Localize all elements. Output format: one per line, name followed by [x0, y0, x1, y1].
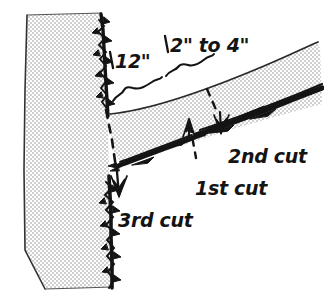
- cut-label-3rd: 3rd cut: [118, 209, 194, 231]
- brace-2to4in: [166, 54, 214, 76]
- dimension-label-12in: 12": [115, 50, 150, 72]
- dimension-label-2to4in: 2" to 4": [170, 34, 249, 56]
- third-cut-arrowhead: [111, 172, 127, 196]
- cut-label-2nd: 2nd cut: [228, 145, 308, 167]
- diagram-canvas: 12" 2" to 4" 2nd cut 1st cut 3rd cut: [0, 0, 324, 302]
- tick-12in: [110, 52, 113, 68]
- pruning-diagram: 12" 2" to 4" 2nd cut 1st cut 3rd cut: [0, 0, 324, 302]
- cut-label-1st: 1st cut: [195, 177, 268, 199]
- tick-2to4in: [165, 36, 168, 52]
- brace-12in: [113, 77, 162, 101]
